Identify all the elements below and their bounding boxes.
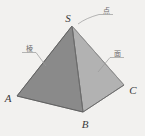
vertex-label-b: B [82, 118, 89, 130]
vertex-label-c: C [129, 84, 137, 96]
annotation-face-label: 面 [114, 50, 121, 58]
edge-annotation-leader [36, 53, 46, 67]
geometry-figure: S A B C 点 棱 面 [0, 0, 145, 136]
pyramid-drawing: S A B C 点 棱 面 [0, 0, 145, 136]
vertex-label-s: S [65, 12, 71, 24]
vertex-annotation-leader [78, 15, 99, 25]
face-sab [17, 26, 83, 112]
annotation-vertex-label: 点 [103, 7, 110, 15]
annotation-edge-label: 棱 [26, 44, 33, 53]
vertex-label-a: A [4, 92, 12, 104]
